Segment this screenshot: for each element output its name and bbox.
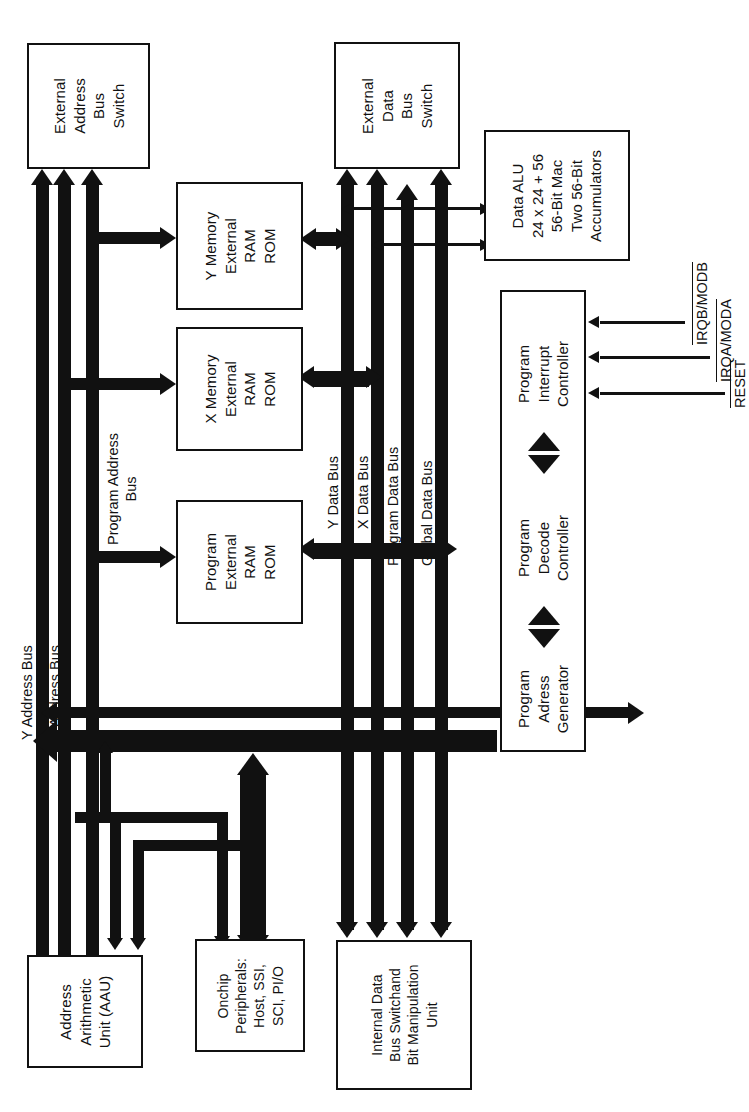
aau-down-line-a-arrow — [107, 938, 123, 950]
reset-label: RESET — [730, 360, 749, 408]
program-data-bus-line — [401, 200, 414, 930]
program-data-bus-arrowhead-top — [396, 184, 418, 200]
y-memory-label: Y Memory External RAM ROM — [201, 212, 279, 281]
onchip-peripherals-label: Onchip Peripherals: Host, SSI, SCI, PI/O — [214, 958, 287, 1034]
y-address-bus-line — [36, 185, 49, 960]
controller-separator-1-down — [528, 455, 560, 474]
program-memory-data-link-right-arrow — [441, 538, 457, 560]
x-memory-block[interactable]: X Memory External RAM ROM — [176, 327, 303, 451]
global-data-bus-arrowhead-bottom — [430, 922, 452, 938]
external-data-bus-switch-block[interactable]: External Data Bus Switch — [334, 42, 460, 169]
peripheral-bus-thick — [240, 775, 266, 937]
addr-spur-to-y-memory — [99, 232, 161, 244]
program-address-bus-label: Program Address Bus — [104, 433, 140, 545]
y-memory-block[interactable]: Y Memory External RAM ROM — [176, 182, 303, 310]
pag-feedback-right-arrow — [628, 702, 644, 724]
program-interrupt-controller-label: Program Interrupt Controller — [514, 341, 573, 407]
global-data-bus-label: Global Data Bus — [418, 460, 436, 566]
data-alu-label: Data ALU 24 x 24 + 56 56-Bit Mac Two 56-… — [508, 149, 606, 241]
external-address-bus-switch-block[interactable]: External Address Bus Switch — [27, 43, 150, 169]
program-address-bus-arrowhead — [81, 169, 103, 185]
data-alu-link-lower-left-arrow — [371, 239, 382, 251]
program-decode-controller-label: Program Decode Controller — [514, 515, 573, 581]
program-address-generator-label: Program Adress Generator — [514, 665, 573, 733]
aau-connector-horizontal-2 — [133, 840, 253, 851]
program-address-bus-line — [86, 185, 99, 960]
aau-down-line-b — [133, 845, 144, 940]
program-controller-block[interactable]: Program Interrupt Controller Program Dec… — [500, 290, 586, 752]
x-address-bus-line — [58, 185, 71, 960]
x-address-bus-arrowhead — [53, 169, 75, 185]
reset-arrowhead — [588, 387, 599, 399]
y-memory-data-link — [313, 232, 337, 246]
address-arithmetic-unit-label: Address Arithmetic Unit (AAU) — [56, 975, 115, 1048]
internal-data-bus-switch-block[interactable]: Internal Data Bus Switchand Bit Manipula… — [336, 940, 472, 1090]
x-data-bus-label: X Data Bus — [354, 456, 372, 529]
x-memory-data-link-right-arrow — [366, 366, 382, 388]
addr-spur-x-memory-arrowhead — [160, 373, 176, 395]
global-data-bus-arrowhead-top — [430, 169, 452, 185]
data-alu-link-upper-left-arrow — [341, 203, 352, 215]
external-data-bus-switch-label: External Data Bus Switch — [358, 78, 436, 134]
dsp-block-diagram: External Address Bus Switch External Dat… — [0, 0, 749, 1112]
address-arithmetic-unit-block[interactable]: Address Arithmetic Unit (AAU) — [27, 955, 143, 1068]
pdc-input-line — [55, 730, 497, 752]
x-memory-label: X Memory External RAM ROM — [201, 354, 279, 423]
y-data-bus-arrowhead-top — [336, 169, 358, 185]
external-address-bus-switch-label: External Address Bus Switch — [50, 78, 128, 134]
irqa-moda-arrowhead — [588, 351, 599, 363]
program-data-bus-label: Program Data Bus — [384, 447, 402, 566]
data-alu-link-upper — [352, 207, 487, 210]
data-alu-block[interactable]: Data ALU 24 x 24 + 56 56-Bit Mac Two 56-… — [484, 130, 630, 261]
aau-down-line-a — [110, 818, 121, 940]
controller-separator-2-down — [528, 629, 560, 648]
controller-separator-1-up — [528, 432, 560, 451]
y-address-bus-arrowhead — [31, 169, 53, 185]
addr-spur-to-x-memory — [71, 378, 161, 390]
controller-separator-2-up — [528, 606, 560, 625]
internal-data-bus-switch-label: Internal Data Bus Switchand Bit Manipula… — [368, 964, 441, 1065]
irqa-moda-line — [600, 356, 710, 359]
x-data-bus-arrowhead-bottom — [366, 922, 388, 938]
addr-spur-to-program-memory — [99, 551, 161, 563]
program-memory-block[interactable]: Program External RAM ROM — [176, 500, 303, 624]
x-data-bus-arrowhead-top — [366, 169, 388, 185]
program-memory-label: Program External RAM ROM — [201, 533, 279, 591]
data-alu-link-lower — [382, 243, 487, 246]
peripheral-bus-up-arrow — [237, 753, 269, 775]
irqb-modb-line — [600, 321, 685, 324]
aau-out-line-a-arrow — [97, 741, 113, 753]
onchip-peripherals-block[interactable]: Onchip Peripherals: Host, SSI, SCI, PI/O — [195, 939, 305, 1052]
aau-out-line-a — [100, 752, 111, 818]
irqb-modb-arrowhead — [588, 316, 599, 328]
x-memory-data-link — [313, 371, 369, 387]
program-data-bus-arrowhead-bottom — [396, 922, 418, 938]
peripheral-down-thin — [217, 812, 228, 938]
x-address-bus-label: X Address Bus — [46, 645, 64, 740]
irqb-modb-label: IRQB/MODB — [692, 262, 711, 345]
addr-spur-program-memory-arrowhead — [160, 546, 176, 568]
addr-spur-y-memory-arrowhead — [160, 227, 176, 249]
aau-down-line-b-arrow — [130, 938, 146, 950]
y-data-bus-arrowhead-bottom — [336, 922, 358, 938]
reset-line — [600, 392, 725, 395]
y-address-bus-label: Y Address Bus — [18, 645, 36, 740]
y-data-bus-label: Y Data Bus — [324, 456, 342, 529]
y-memory-data-link-right-arrow — [336, 228, 352, 250]
aau-connector-horizontal — [75, 812, 227, 823]
